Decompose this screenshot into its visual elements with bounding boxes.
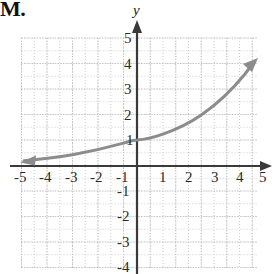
x-tick-label: -5 (14, 170, 27, 185)
x-tick-label: 1 (159, 170, 167, 185)
x-tick-label: 3 (211, 170, 219, 185)
y-tick-label: -3 (117, 235, 130, 250)
exponential-curve (20, 58, 258, 166)
y-tick-label: -2 (117, 209, 130, 224)
x-tick-label: 2 (185, 170, 193, 185)
y-tick-label: 4 (124, 57, 132, 72)
x-tick-label: 4 (236, 170, 244, 185)
y-tick-label: 1 (126, 133, 134, 148)
y-tick-label: 5 (124, 31, 132, 46)
y-tick-label: 3 (124, 82, 132, 97)
coordinate-plane (0, 0, 274, 274)
grid-horizontal (22, 38, 259, 268)
x-tick-label: 5 (259, 170, 267, 185)
x-tick-label: -3 (65, 170, 78, 185)
y-tick-label: 2 (124, 108, 132, 123)
figure-container: M. (0, 0, 274, 274)
y-tick-label: -1 (117, 184, 130, 199)
x-tick-label: -4 (39, 170, 52, 185)
y-axis (132, 20, 142, 274)
y-axis-label: y (133, 2, 140, 19)
x-tick-label: -2 (90, 170, 103, 185)
y-tick-label: -4 (117, 260, 130, 274)
